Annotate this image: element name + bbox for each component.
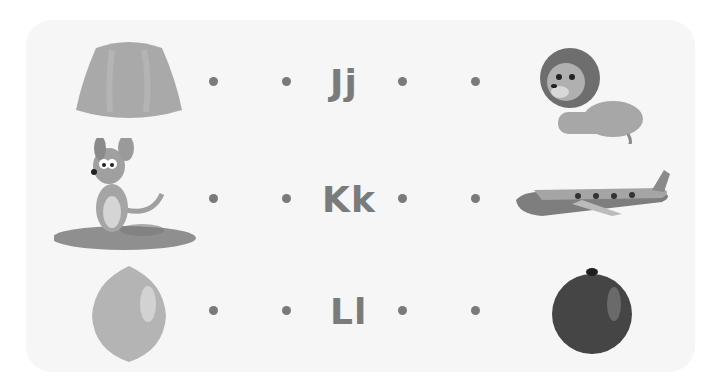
match-dot-left-1[interactable] (209, 77, 218, 86)
letter-jj: Jj (330, 65, 358, 101)
orange-icon[interactable] (550, 264, 634, 356)
letter-ll: Ll (330, 294, 367, 330)
match-dot-letter-right-3[interactable] (398, 306, 407, 315)
match-dot-letter-left-3[interactable] (282, 306, 291, 315)
letter-kk: Kk (322, 182, 376, 218)
match-dot-letter-left-1[interactable] (282, 77, 291, 86)
lemon-icon[interactable] (90, 264, 168, 364)
matching-worksheet-card: Jj Kk (26, 20, 695, 372)
jelly-icon[interactable] (74, 40, 184, 122)
airplane-icon[interactable] (512, 170, 676, 226)
match-dot-left-3[interactable] (209, 306, 218, 315)
lion-icon[interactable] (528, 34, 648, 144)
match-dot-letter-right-2[interactable] (398, 194, 407, 203)
kangaroo-icon[interactable] (54, 138, 204, 253)
match-dot-right-3[interactable] (471, 306, 480, 315)
match-dot-letter-right-1[interactable] (398, 77, 407, 86)
match-dot-right-1[interactable] (471, 77, 480, 86)
match-dot-letter-left-2[interactable] (282, 194, 291, 203)
match-dot-left-2[interactable] (209, 194, 218, 203)
match-dot-right-2[interactable] (471, 194, 480, 203)
